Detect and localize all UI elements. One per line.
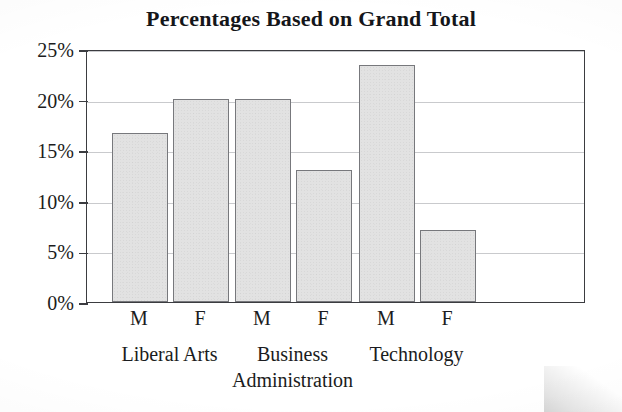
- y-axis-tick-labels: 0%5%10%15%20%25%: [8, 50, 74, 303]
- y-axis-tick-label: 5%: [47, 241, 74, 264]
- y-axis-tick-label: 25%: [37, 39, 74, 62]
- x-axis-group-labels: Liberal ArtsBusiness AdministrationTechn…: [86, 341, 585, 405]
- bar: [359, 65, 415, 302]
- x-axis-tick-label: M: [130, 307, 148, 330]
- x-axis-tick-label: F: [441, 307, 452, 330]
- y-axis-tick-label: 15%: [37, 140, 74, 163]
- bar-chart-figure: Percentages Based on Grand Total 0%5%10%…: [0, 0, 622, 412]
- x-axis-group-label: Technology: [317, 341, 517, 367]
- bars-group: [87, 51, 584, 302]
- chart-title: Percentages Based on Grand Total: [0, 6, 622, 32]
- x-axis-tick-labels: MFMFMF: [86, 307, 585, 337]
- y-axis-tick-label: 10%: [37, 190, 74, 213]
- y-axis-tick-label: 20%: [37, 89, 74, 112]
- x-axis-tick-label: M: [253, 307, 271, 330]
- bar: [420, 230, 476, 302]
- bar: [112, 133, 168, 302]
- y-axis-tick-label: 0%: [47, 292, 74, 315]
- y-axis-tick: [79, 303, 88, 305]
- x-axis-tick-label: F: [317, 307, 328, 330]
- x-axis-tick-label: M: [377, 307, 395, 330]
- x-axis-tick-label: F: [194, 307, 205, 330]
- bar: [173, 99, 229, 302]
- bar: [296, 170, 352, 302]
- bar: [235, 99, 291, 302]
- plot-area: [86, 50, 585, 303]
